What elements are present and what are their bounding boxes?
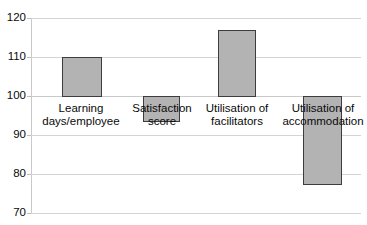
- y-tick-label-120: 120: [0, 12, 26, 24]
- y-tick-label-90: 90: [0, 129, 26, 141]
- y-tick-label-80: 80: [0, 168, 26, 180]
- bar-chart: 120 110 100 90 80 70 Learning: [0, 0, 367, 225]
- y-tick-label-100: 100: [0, 90, 26, 102]
- bar-label-line-1: Utilisation of: [266, 102, 367, 115]
- y-tick-label-70: 70: [0, 207, 26, 219]
- bar-learning-days-per-employee[interactable]: [62, 57, 102, 97]
- bar-label-utilisation-of-accommodation: Utilisation of accommodation: [266, 102, 367, 128]
- plot-area: Learning days/employee Satisfaction scor…: [31, 18, 361, 213]
- bar-utilisation-of-facilitators[interactable]: [218, 30, 256, 97]
- gridline-70: [31, 213, 361, 214]
- gridline-120: [31, 18, 361, 19]
- bar-label-line-2: accommodation: [266, 115, 367, 128]
- y-tick-label-110: 110: [0, 51, 26, 63]
